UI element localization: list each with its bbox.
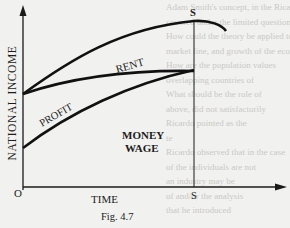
y-axis: [20, 5, 27, 190]
s-bottom-label: S: [191, 190, 197, 201]
figure-page: Adam Smith's concept, in the Ricardian t…: [0, 0, 290, 228]
figure-caption: Fig. 4.7: [101, 211, 133, 222]
origin-label: O: [14, 187, 22, 199]
x-axis-label: TIME: [91, 193, 118, 205]
income-distribution-diagram: NATIONAL INCOME RENT PROFIT MONEY WAGE O…: [0, 0, 290, 228]
y-axis-arrow-icon: [20, 5, 27, 16]
money-label: MONEY: [122, 129, 164, 141]
x-axis-arrow-icon: [275, 184, 287, 191]
wage-label: WAGE: [125, 142, 159, 154]
x-axis: [23, 184, 287, 191]
money-wage-curve: [23, 70, 194, 148]
s-top-label: S: [190, 7, 196, 18]
national-income-curve: [23, 21, 226, 94]
y-axis-label: NATIONAL INCOME: [6, 46, 18, 161]
rent-profit-boundary-curve: [23, 71, 194, 94]
